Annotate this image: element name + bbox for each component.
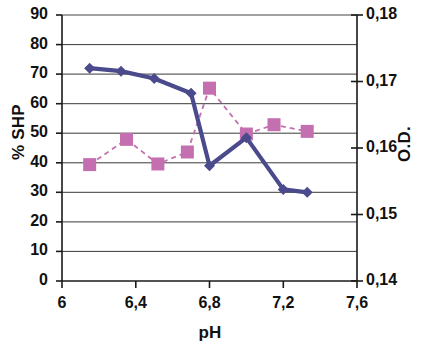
y-right-axis-title: O.D. xyxy=(395,109,415,179)
x-ticks xyxy=(62,281,357,288)
y-left-tick-30: 30 xyxy=(4,182,48,200)
y-left-tick-0: 0 xyxy=(4,271,48,289)
x-tick-72: 7,2 xyxy=(253,294,313,312)
shp-marker xyxy=(302,187,313,198)
y-right-tick-015: 0,15 xyxy=(366,205,418,223)
y-left-tick-70: 70 xyxy=(4,64,48,82)
y-left-tick-10: 10 xyxy=(4,241,48,259)
y-left-tick-20: 20 xyxy=(4,212,48,230)
od-marker xyxy=(301,125,314,138)
chart-container: 90 80 70 60 50 40 30 20 10 0 0,18 0,17 0… xyxy=(0,0,425,351)
shp-marker xyxy=(186,88,197,99)
shp-marker xyxy=(84,63,95,74)
x-tick-68: 6,8 xyxy=(180,294,240,312)
od-marker xyxy=(268,118,281,131)
x-axis-title: pH xyxy=(150,323,270,343)
shp-marker xyxy=(116,66,127,77)
x-tick-6: 6 xyxy=(32,294,92,312)
y-right-tick-014: 0,14 xyxy=(366,271,418,289)
x-tick-76: 7,6 xyxy=(327,294,387,312)
y-left-tick-90: 90 xyxy=(4,5,48,23)
shp-marker xyxy=(149,73,160,84)
od-marker xyxy=(203,82,216,95)
od-marker xyxy=(83,158,96,171)
y-right-tick-017: 0,17 xyxy=(366,72,418,90)
y-left-tick-80: 80 xyxy=(4,35,48,53)
y-left-ticks xyxy=(56,15,62,281)
axis-lines xyxy=(62,15,357,281)
od-marker xyxy=(151,157,164,170)
y-right-tick-018: 0,18 xyxy=(366,5,418,23)
x-tick-64: 6,4 xyxy=(106,294,166,312)
od-marker xyxy=(120,133,133,146)
od-marker xyxy=(181,145,194,158)
y-left-axis-title: % SHP xyxy=(9,87,29,177)
